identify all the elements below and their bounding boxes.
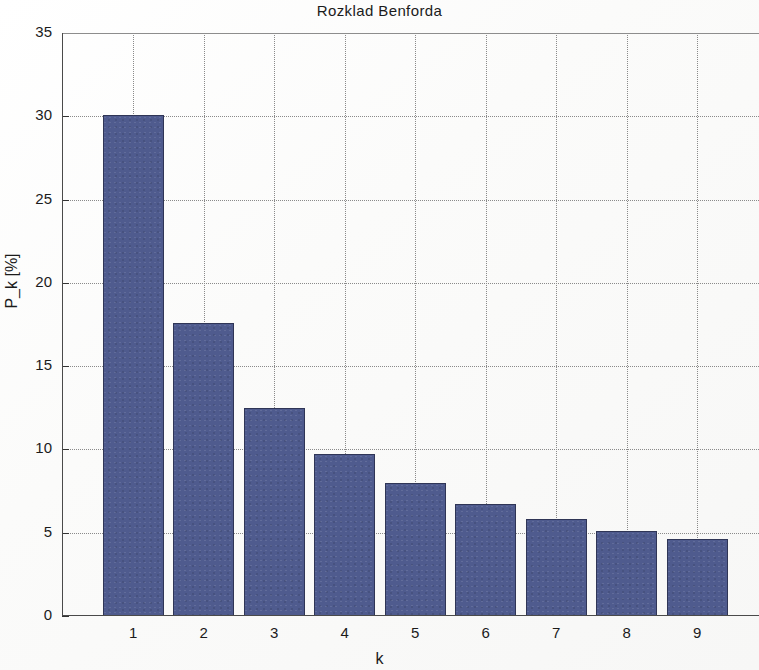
x-axis-label: k [0, 650, 759, 668]
gridline-horizontal [62, 283, 759, 284]
gridline-horizontal [62, 200, 759, 201]
bar [103, 115, 164, 616]
gridline-horizontal [62, 116, 759, 117]
axis-bottom-spine [62, 615, 759, 616]
x-tick-label: 1 [113, 624, 153, 641]
x-tick-label: 7 [536, 624, 576, 641]
chart-title: Rozklad Benforda [0, 2, 759, 19]
bar [314, 454, 375, 616]
bar [244, 408, 305, 616]
bar [526, 519, 587, 616]
plot-area [62, 33, 759, 616]
x-tick-label: 3 [254, 624, 294, 641]
x-tick-label: 9 [677, 624, 717, 641]
x-tick-label: 5 [395, 624, 435, 641]
y-tick-mark [62, 200, 69, 201]
bar [455, 504, 516, 616]
gridline-vertical [697, 33, 698, 616]
x-tick-label: 8 [607, 624, 647, 641]
gridline-horizontal [62, 449, 759, 450]
bar [385, 483, 446, 616]
bar [667, 539, 728, 616]
x-tick-label: 4 [325, 624, 365, 641]
axis-left-spine [62, 33, 63, 616]
y-tick-mark [62, 366, 69, 367]
y-tick-mark [62, 449, 69, 450]
y-axis-label-wrap: P_k [%] [2, 0, 26, 583]
bar [596, 531, 657, 616]
gridline-horizontal [62, 366, 759, 367]
y-tick-mark [62, 616, 69, 617]
y-tick-mark [62, 283, 69, 284]
y-tick-mark [62, 533, 69, 534]
y-tick-mark [62, 116, 69, 117]
bar [173, 323, 234, 616]
x-tick-label: 6 [466, 624, 506, 641]
gridline-vertical [627, 33, 628, 616]
y-axis-label: P_k [%] [3, 161, 21, 401]
x-tick-label: 2 [184, 624, 224, 641]
axis-top-spine [62, 33, 759, 34]
y-tick-label: 0 [8, 606, 52, 623]
benford-chart-figure: Rozklad Benforda 05101520253035 12345678… [0, 0, 759, 670]
